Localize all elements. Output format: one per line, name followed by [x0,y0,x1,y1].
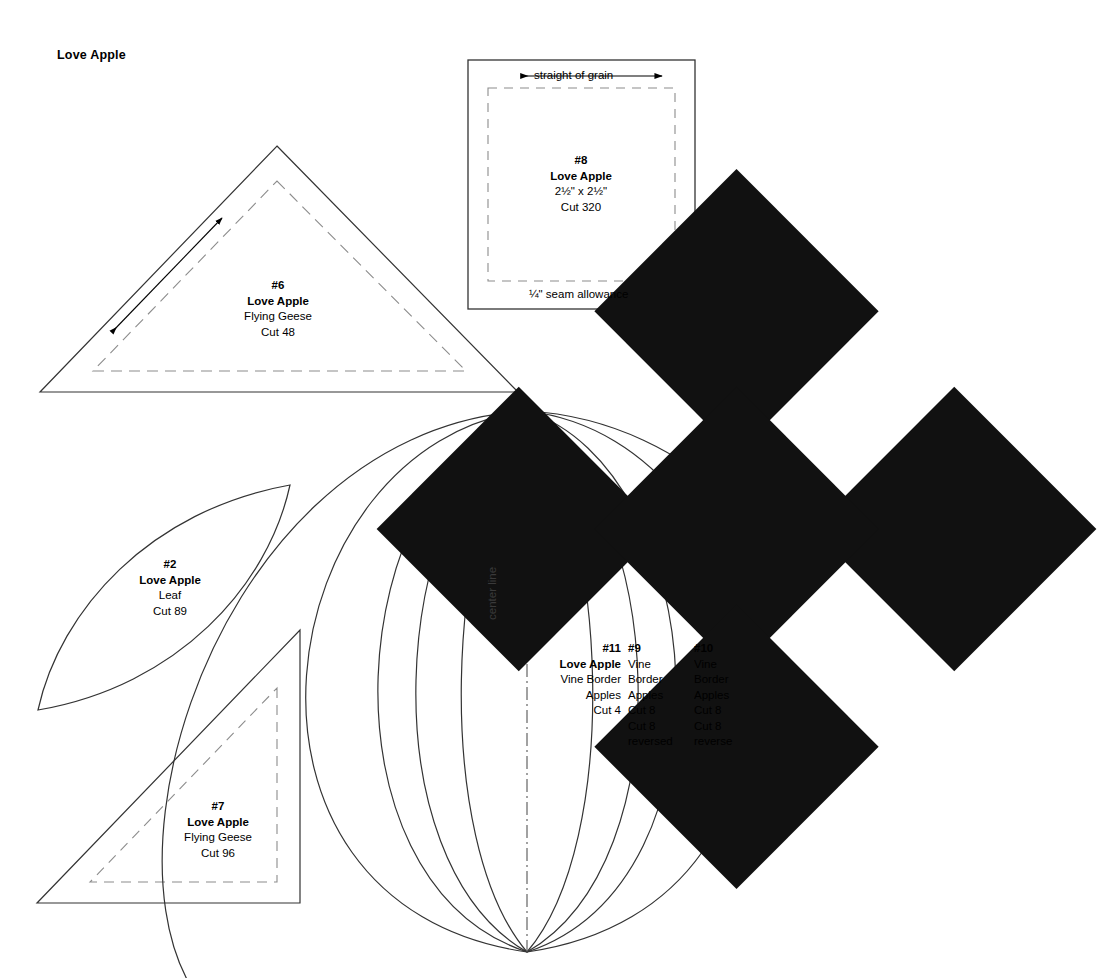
template-cut-reversed-10-line2: reverse [694,734,762,750]
template-unit-10-line3: Apples [694,688,762,704]
template-unit-6: Flying Geese [208,309,348,325]
template-number-7: #7 [156,799,280,815]
template-label-10: #10 Vine Border Apples Cut 8 Cut 8 rever… [694,641,762,750]
template-cut-reversed-9-line2: reversed [628,734,696,750]
template-unit-2: Leaf [100,588,240,604]
template-number-11: #11 [531,641,621,657]
template-label-7: #7 Love Apple Flying Geese Cut 96 [156,799,280,861]
template-unit-9-line3: Apples [628,688,696,704]
four-diamond-cluster-icon [368,40,412,80]
template-cut-reversed-9-line1: Cut 8 [628,719,696,735]
template-unit-9-line2: Border [628,672,696,688]
template-cut-2: Cut 89 [100,604,240,620]
template-number-2: #2 [100,557,240,573]
cut-line-7 [37,630,300,903]
template-number-8: #8 [519,153,643,169]
template-unit-10-line2: Border [694,672,762,688]
template-label-2: #2 Love Apple Leaf Cut 89 [100,557,240,619]
template-shape-7 [37,630,300,903]
template-cut-7: Cut 96 [156,846,280,862]
template-unit-10-line1: Vine [694,657,762,673]
template-pattern-6: Love Apple [208,294,348,310]
template-cut-8: Cut 320 [519,200,643,216]
seam-allowance-label-8: ¼" seam allowance [529,288,628,300]
template-pattern-8: Love Apple [519,169,643,185]
template-unit-11-line1: Vine Border [531,672,621,688]
template-cut-reversed-10-line1: Cut 8 [694,719,762,735]
template-size-8: 2½" x 2½" [519,184,643,200]
template-cut-10: Cut 8 [694,703,762,719]
template-pattern-11: Love Apple [531,657,621,673]
template-unit-7: Flying Geese [156,830,280,846]
template-unit-11-line2: Apples [531,688,621,704]
grain-label-8: straight of grain [534,69,613,81]
template-unit-9-line1: Vine [628,657,696,673]
template-cut-9: Cut 8 [628,703,696,719]
template-number-9: #9 [628,641,696,657]
page-title: Love Apple [57,48,126,62]
template-label-11: #11 Love Apple Vine Border Apples Cut 4 [531,641,621,719]
template-pattern-2: Love Apple [100,573,240,589]
template-number-10: #10 [694,641,762,657]
template-cut-11: Cut 4 [531,703,621,719]
center-line-label: center line [486,567,498,620]
template-label-6: #6 Love Apple Flying Geese Cut 48 [208,278,348,340]
template-label-8: #8 Love Apple 2½" x 2½" Cut 320 [519,153,643,215]
grain-arrow-6 [112,218,222,332]
template-pattern-7: Love Apple [156,815,280,831]
template-label-9: #9 Vine Border Apples Cut 8 Cut 8 revers… [628,641,696,750]
template-cut-6: Cut 48 [208,325,348,341]
template-number-6: #6 [208,278,348,294]
